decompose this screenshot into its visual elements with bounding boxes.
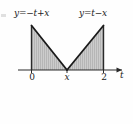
curve-label-right: y=t−x [79, 8, 107, 18]
graph-canvas [0, 0, 133, 124]
axis-tick-label-x: x [61, 72, 73, 82]
axis-name-label: t [120, 70, 124, 80]
axis-tick-label-0: 0 [26, 72, 38, 82]
curve-label-left: y=−t+x [14, 8, 49, 18]
math-figure: y=−t+x y=t−x 0 x 2 t [0, 0, 133, 124]
axis-tick-label-2: 2 [98, 72, 110, 82]
